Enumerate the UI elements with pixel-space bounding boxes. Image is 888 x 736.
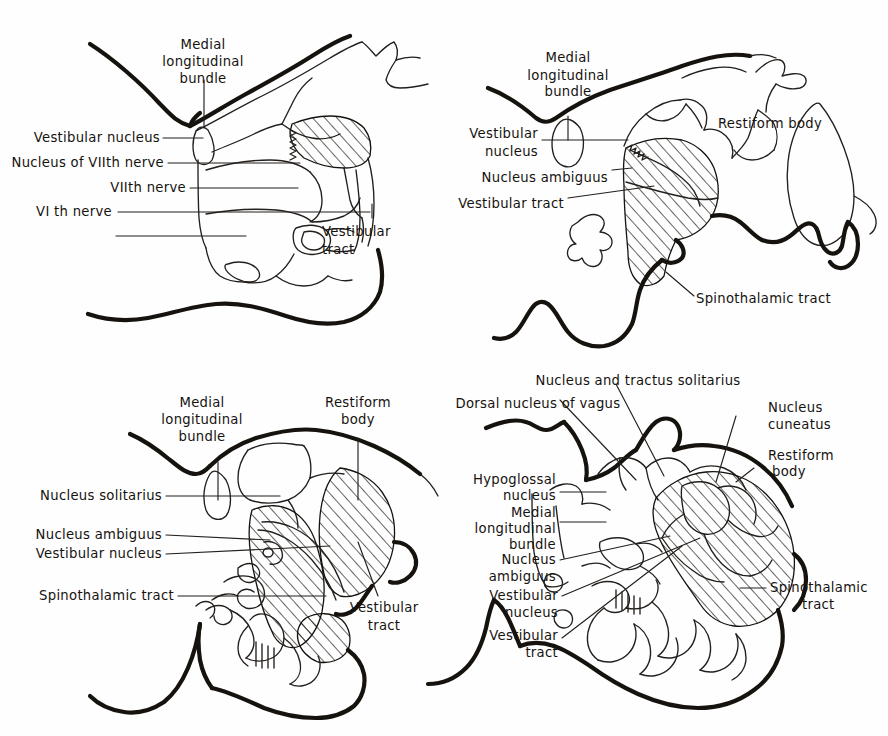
label-restiform: Restiform bbox=[325, 395, 391, 410]
label-nucleus-solitarius: Nucleus solitarius bbox=[40, 488, 162, 503]
panel-upper-pons: Medial longitudinal bundle Vestibular nu… bbox=[0, 0, 444, 370]
label-vestibular-tract-line1: Vestibular bbox=[489, 628, 558, 643]
label-nucleus-ambiguus: Nucleus ambiguus bbox=[36, 527, 162, 542]
label-vestibular-tract: Vestibular tract bbox=[458, 196, 564, 211]
label-nucleus-ambiguus: Nucleus ambiguus bbox=[482, 170, 608, 185]
label-medial: Medial bbox=[511, 505, 556, 520]
label-nucleus: nucleus bbox=[503, 488, 556, 503]
label-longitudinal: longitudinal bbox=[161, 412, 242, 427]
label-medial: Medial bbox=[180, 37, 225, 52]
label-body: body bbox=[341, 412, 375, 427]
label-viith-nerve: VIIth nerve bbox=[110, 180, 186, 195]
label-spinothalamic-tract: Spinothalamic tract bbox=[39, 588, 174, 603]
label-vestibular-tract-line2: tract bbox=[322, 242, 355, 257]
label-vestibular-tract-line1: Vestibular bbox=[322, 224, 391, 239]
label-restiform: Restiform bbox=[768, 448, 834, 463]
label-vith-nerve: VI th nerve bbox=[36, 204, 112, 219]
label-restiform-body: Restiform body bbox=[718, 116, 822, 131]
label-vestibular-tract-line2: tract bbox=[368, 618, 401, 633]
label-spinothalamic-tract: Spinothalamic tract bbox=[696, 291, 831, 306]
label-nucleus: nucleus bbox=[485, 144, 538, 159]
brainstem-figure: Medial longitudinal bundle Vestibular nu… bbox=[0, 0, 888, 736]
label-spinothalamic: Spinothalamic bbox=[770, 580, 868, 595]
label-medial: Medial bbox=[545, 50, 590, 65]
panel-mid-medulla-upper: Medial longitudinal bundle Vestibular nu… bbox=[420, 0, 888, 380]
panel-medulla-mid: Medial longitudinal bundle Restiform bod… bbox=[0, 370, 450, 736]
label-longitudinal: longitudinal bbox=[475, 521, 556, 536]
label-body: body bbox=[772, 464, 806, 479]
label-bundle: bundle bbox=[178, 429, 225, 444]
label-bundle: bundle bbox=[509, 537, 556, 552]
label-longitudinal: longitudinal bbox=[162, 54, 243, 69]
label-nucleus-of-viith-nerve: Nucleus of VIIth nerve bbox=[11, 155, 164, 170]
label-nucleus-word: Nucleus bbox=[501, 552, 556, 567]
label-bundle: bundle bbox=[544, 84, 591, 99]
label-medial: Medial bbox=[179, 395, 224, 410]
label-vestibular-nucleus: Vestibular nucleus bbox=[36, 546, 162, 561]
label-nucleus-2: nucleus bbox=[505, 605, 558, 620]
label-ambiguus: ambiguus bbox=[489, 569, 556, 584]
label-vestibular-tract-line1: Vestibular bbox=[350, 600, 419, 615]
label-bundle: bundle bbox=[179, 71, 226, 86]
label-dorsal-nucleus-of-vagus: Dorsal nucleus of vagus bbox=[456, 396, 621, 411]
label-vestibular: Vestibular bbox=[489, 588, 558, 603]
label-vestibular: Vestibular bbox=[469, 126, 538, 141]
label-tract: tract bbox=[802, 597, 835, 612]
label-hypoglossal: Hypoglossal bbox=[473, 472, 556, 487]
label-vestibular-nucleus: Vestibular nucleus bbox=[34, 130, 160, 145]
label-nucleus-and-tractus-solitarius: Nucleus and tractus solitarius bbox=[535, 373, 740, 388]
label-nucleus-cuneatus-line2: cuneatus bbox=[768, 417, 831, 432]
panel-lower-medulla: Nucleus and tractus solitarius Dorsal nu… bbox=[420, 370, 888, 736]
label-longitudinal: longitudinal bbox=[527, 68, 608, 83]
label-vestibular-tract-line2: tract bbox=[525, 645, 558, 660]
label-nucleus-cuneatus-line1: Nucleus bbox=[768, 400, 823, 415]
